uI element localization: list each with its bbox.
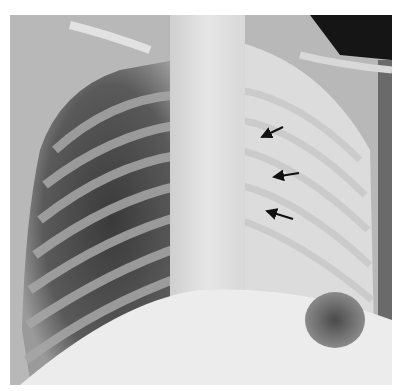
mediastinum (170, 15, 245, 315)
chest-xray-image (0, 0, 400, 391)
gastric-bubble (305, 292, 365, 348)
